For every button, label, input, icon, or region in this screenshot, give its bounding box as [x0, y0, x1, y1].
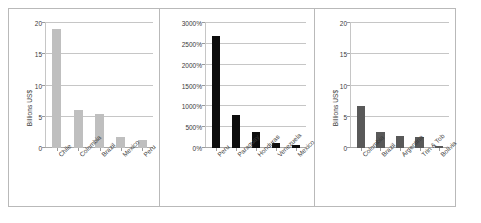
- y-tick-mark: [347, 116, 350, 117]
- y-tick-mark: [202, 85, 205, 86]
- figure-container: Billions US$ 05101520 ChileColombiaBrazi…: [0, 0, 481, 223]
- y-tick-label: 5: [38, 113, 42, 120]
- plot-area: 05101520 ChileColombiaBrazilMexicoPeru: [45, 23, 153, 148]
- chart-panel-right: Billions US$ 05101520 ColombiaBrazilArge…: [315, 9, 455, 206]
- y-tick-mark: [42, 147, 45, 148]
- y-tick-label: 1500%: [182, 82, 202, 89]
- bar-slot: [286, 23, 306, 148]
- bar: [116, 137, 125, 148]
- y-tick-mark: [347, 85, 350, 86]
- y-tick-label: 5: [343, 113, 347, 120]
- bar: [357, 106, 365, 148]
- bar-slot: [46, 23, 67, 148]
- y-tick-mark: [202, 43, 205, 44]
- y-axis-label: Billions US$: [26, 89, 33, 125]
- bar: [212, 36, 220, 149]
- chart-panel-middle: 0%500%1000%1500%2000%2500%3000% PeruPara…: [159, 9, 315, 206]
- y-tick-label: 0: [343, 145, 347, 152]
- bar-series: [206, 23, 306, 148]
- bar-slot: [226, 23, 246, 148]
- bar-slot: [89, 23, 110, 148]
- y-axis-label: Billions US$: [332, 89, 339, 125]
- bar-slot: [246, 23, 266, 148]
- y-tick-label: 15: [340, 51, 347, 58]
- bar-slot: [390, 23, 410, 148]
- plot-area: 0%500%1000%1500%2000%2500%3000% PeruPara…: [205, 23, 306, 148]
- y-tick-mark: [42, 85, 45, 86]
- y-tick-mark: [347, 22, 350, 23]
- bar: [52, 29, 61, 148]
- y-tick-label: 2500%: [182, 40, 202, 47]
- y-tick-mark: [202, 22, 205, 23]
- bar-slot: [429, 23, 449, 148]
- bar-slot: [110, 23, 131, 148]
- y-tick-label: 10: [35, 82, 42, 89]
- plot-area: 05101520 ColombiaBrazilArgentinaTrin & T…: [350, 23, 449, 148]
- bar-slot: [132, 23, 153, 148]
- bar-series: [351, 23, 449, 148]
- y-tick-mark: [347, 53, 350, 54]
- y-tick-label: 10: [340, 82, 347, 89]
- x-tick-mark: [100, 148, 101, 151]
- bar-slot: [371, 23, 391, 148]
- y-tick-label: 500%: [185, 124, 202, 131]
- y-tick-label: 0: [38, 145, 42, 152]
- y-tick-label: 1000%: [182, 103, 202, 110]
- y-tick-mark: [42, 22, 45, 23]
- y-tick-mark: [42, 116, 45, 117]
- y-tick-mark: [202, 126, 205, 127]
- y-tick-label: 0%: [193, 145, 202, 152]
- bar: [232, 115, 240, 148]
- bar-chart-left: Billions US$ 05101520 ChileColombiaBrazi…: [9, 9, 159, 206]
- y-tick-mark: [347, 147, 350, 148]
- bar-slot: [67, 23, 88, 148]
- y-tick-label: 15: [35, 51, 42, 58]
- bar-chart-right: Billions US$ 05101520 ColombiaBrazilArge…: [315, 9, 455, 206]
- bar: [74, 110, 83, 148]
- y-tick-mark: [202, 105, 205, 106]
- y-tick-mark: [202, 147, 205, 148]
- bar-slot: [206, 23, 226, 148]
- panel-row: Billions US$ 05101520 ChileColombiaBrazi…: [8, 8, 456, 207]
- y-tick-label: 20: [340, 20, 347, 27]
- bar: [396, 136, 404, 149]
- bar-chart-middle: 0%500%1000%1500%2000%2500%3000% PeruPara…: [160, 9, 314, 206]
- chart-panel-left: Billions US$ 05101520 ChileColombiaBrazi…: [9, 9, 159, 206]
- y-tick-mark: [202, 64, 205, 65]
- y-tick-label: 3000%: [182, 20, 202, 27]
- bar-slot: [351, 23, 371, 148]
- bar-series: [46, 23, 153, 148]
- bar-slot: [410, 23, 430, 148]
- y-tick-label: 2000%: [182, 61, 202, 68]
- bar-slot: [266, 23, 286, 148]
- y-tick-label: 20: [35, 20, 42, 27]
- x-tick-mark: [420, 148, 421, 151]
- y-tick-mark: [42, 53, 45, 54]
